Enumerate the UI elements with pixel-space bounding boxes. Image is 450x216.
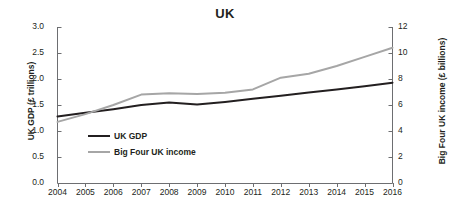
legend-item-big-four-uk-income: Big Four UK income xyxy=(88,144,196,160)
legend-label-uk-gdp: UK GDP xyxy=(114,131,147,141)
data-series xyxy=(58,48,393,122)
legend-swatch-uk-gdp xyxy=(88,135,110,137)
chart-legend: UK GDP Big Four UK income xyxy=(88,128,196,160)
series-line-uk-gdp xyxy=(58,83,393,117)
plot-area xyxy=(0,0,450,216)
axis-lines xyxy=(58,27,393,184)
legend-item-uk-gdp: UK GDP xyxy=(88,128,196,144)
chart-container: UK UK GDP (£ trillions) Big Four UK inco… xyxy=(0,0,450,216)
legend-label-big-four-uk-income: Big Four UK income xyxy=(114,147,196,157)
legend-swatch-big-four-uk-income xyxy=(88,151,110,153)
